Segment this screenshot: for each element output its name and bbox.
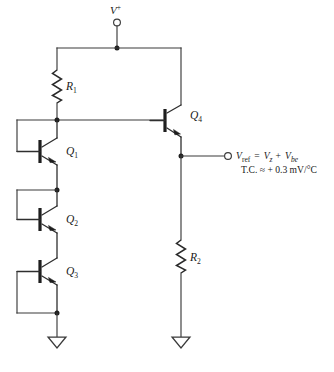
q1-collector-lead-diagonal: [42, 138, 57, 147]
circuit-schematic: Q1 Q2 Q: [0, 0, 334, 372]
output-branch: [179, 153, 232, 240]
triangle-ground-icon-left: [48, 337, 66, 348]
q3-label: Q3: [66, 265, 78, 280]
r2-zigzag-body: [177, 240, 186, 273]
q3-emitter-arrow-icon: [49, 277, 57, 282]
q2-label: Q2: [66, 213, 78, 228]
top-supply-rail: [57, 48, 181, 105]
r1-zigzag-body: [53, 70, 62, 103]
node-a-bias: [17, 118, 163, 123]
vref-equation: Vref=Vz+Vbe: [236, 150, 299, 164]
triangle-ground-icon-right: [172, 337, 190, 348]
q2-collector-lead-diagonal: [42, 206, 57, 215]
schematic-canvas: Q1 Q2 Q: [0, 0, 334, 372]
q4-label: Q4: [190, 109, 202, 124]
q4-collector-lead-diagonal: [167, 105, 181, 113]
v-plus-terminal-icon: [114, 19, 121, 26]
q1-emitter-arrow-icon: [49, 157, 57, 162]
q2-emitter-arrow-icon: [49, 225, 57, 230]
transistor-q3: Q3: [17, 258, 78, 316]
q1-label: Q1: [66, 145, 78, 160]
supply-branch: [114, 19, 121, 50]
r1-label: R1: [65, 80, 77, 95]
transistor-q1: Q1: [17, 120, 78, 190]
resistor-r1: [53, 70, 62, 120]
ground-right: [172, 337, 190, 348]
transistor-q4: Q4: [150, 105, 202, 156]
tempco-annotation: T.C. ≈ + 0.3 mV/°C: [241, 164, 317, 175]
supply-label: V+: [110, 3, 121, 16]
node-b: [17, 188, 60, 193]
q3-collector-lead-diagonal: [42, 258, 57, 267]
transistor-q2: Q2: [17, 190, 78, 258]
ground-left: [48, 313, 66, 348]
r2-label: R2: [189, 251, 201, 266]
resistor-r2: [177, 240, 186, 337]
vref-terminal-icon: [225, 153, 232, 160]
q4-emitter-arrow-icon: [174, 129, 181, 134]
